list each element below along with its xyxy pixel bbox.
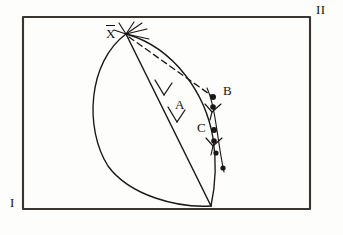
point-label-C: C — [197, 121, 206, 134]
figure-canvas: I II X A B C — [0, 0, 343, 235]
dot-B — [210, 94, 216, 100]
dot-C — [211, 127, 217, 133]
corner-label-I: I — [10, 196, 15, 209]
point-label-X-text: X — [106, 26, 115, 41]
dot-c3 — [213, 150, 218, 155]
diagram-svg — [0, 0, 343, 235]
x-bar-glyph: X — [106, 27, 115, 40]
dot-lower — [220, 165, 225, 170]
dot-c2 — [211, 138, 217, 144]
point-label-A: A — [175, 98, 184, 111]
point-label-X: X — [106, 27, 115, 40]
dot-b2 — [210, 104, 216, 110]
corner-label-II: II — [316, 3, 326, 16]
apex-ray-cluster — [114, 22, 149, 39]
chord-arrowhead-upper — [155, 80, 172, 95]
border-rectangle — [23, 17, 310, 209]
outer-left-arc — [93, 34, 211, 206]
point-label-B: B — [223, 84, 232, 97]
overbar-mark — [106, 25, 115, 26]
